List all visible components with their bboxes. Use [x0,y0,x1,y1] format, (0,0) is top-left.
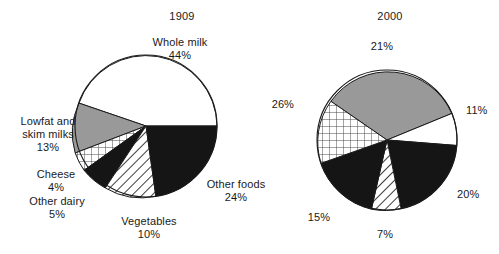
right-label-vegetables: 7% [367,228,403,241]
left-label-other-foods-value: 24% [195,191,277,204]
left-label-whole-milk-value: 44% [125,49,235,62]
left-label-lowfat-value: 13% [2,141,94,154]
left-label-whole-milk-name: Whole milk [153,36,208,48]
right-label-vegetables-value: 7% [377,228,393,240]
right-pie-slices [317,70,457,211]
left-label-other-dairy: Other dairy 5% [10,195,104,221]
right-label-lowfat-skim-milks: 21% [360,40,404,53]
pie-chart-figure: 1909 Whole milk 44% Lowfat and skim milk… [0,0,499,254]
right-label-cheese: 26% [250,98,294,111]
right-label-other-foods-value: 20% [457,188,479,200]
right-label-cheese-value: 26% [272,98,294,110]
left-label-other-dairy-name: Other dairy [29,195,85,207]
left-label-other-foods-name: Other foods [207,178,266,190]
left-label-vegetables-name: Vegetables [121,215,176,227]
left-label-lowfat-line1: Lowfat and [21,115,76,127]
right-label-other-dairy: 15% [300,211,338,224]
left-label-lowfat-line2: skim milks [2,128,94,141]
left-label-other-dairy-value: 5% [10,208,104,221]
left-label-cheese: Cheese 4% [16,168,96,194]
right-label-other-foods: 20% [457,188,493,201]
right-label-other-dairy-value: 15% [308,211,330,223]
right-label-lowfat-value: 21% [371,40,393,52]
left-chart-title: 1909 [152,10,212,23]
left-label-whole-milk: Whole milk 44% [125,36,235,62]
left-label-vegetables: Vegetables 10% [104,215,194,241]
right-chart-title: 2000 [360,10,420,23]
left-label-other-foods: Other foods 24% [195,178,277,204]
right-label-whole-milk-value: 11% [466,104,488,116]
left-label-cheese-name: Cheese [37,168,76,180]
left-label-lowfat-skim-milks: Lowfat and skim milks 13% [2,115,94,154]
left-label-cheese-value: 4% [16,181,96,194]
left-label-vegetables-value: 10% [104,228,194,241]
right-label-whole-milk: 11% [466,104,498,117]
